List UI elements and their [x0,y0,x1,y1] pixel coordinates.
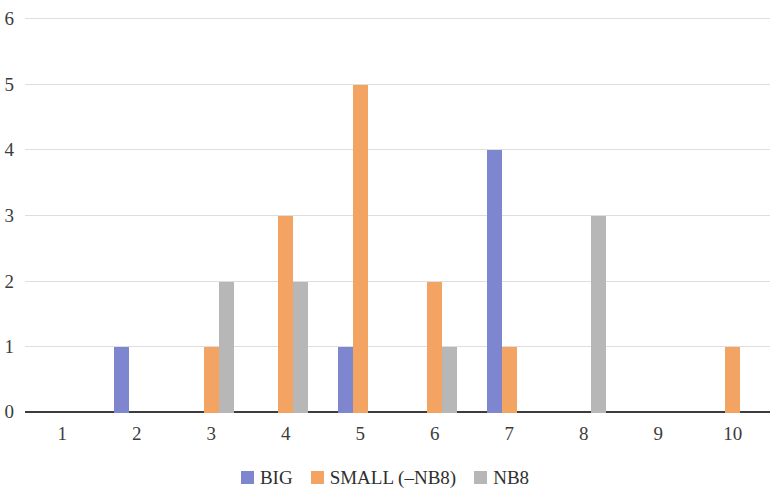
legend-swatch-icon [474,471,487,484]
x-tick-label: 10 [723,424,742,443]
bar-slot [368,19,383,413]
bar[interactable] [204,347,219,413]
bar-chart: 0123456 12345678910 BIGSMALL (–NB8)NB8 [0,0,770,501]
legend-item[interactable]: NB8 [474,468,529,487]
bar[interactable] [353,85,368,413]
bar-slot [55,19,70,413]
chart-legend: BIGSMALL (–NB8)NB8 [0,468,770,487]
bar[interactable] [502,347,517,413]
bar-slot [725,19,740,413]
bar-slot [576,19,591,413]
x-tick-label: 7 [505,424,515,443]
bars-layer [25,19,770,413]
bar-slot [129,19,144,413]
bar-slot [561,19,576,413]
bar-slot [219,19,234,413]
bar[interactable] [442,347,457,413]
x-tick-label: 5 [356,424,366,443]
y-tick-label: 3 [5,206,15,225]
bar-slot [591,19,606,413]
y-tick-label: 1 [5,337,15,356]
legend-swatch-icon [241,471,254,484]
bar-slot [40,19,55,413]
bar-slot [666,19,681,413]
legend-label: NB8 [493,468,529,487]
y-tick-label: 6 [5,9,15,28]
x-tick-label: 4 [281,424,291,443]
bar[interactable] [293,282,308,413]
x-tick-label: 8 [579,424,589,443]
bar-slot [636,19,651,413]
x-tick-label: 3 [207,424,217,443]
bar-group [323,19,398,413]
legend-label: SMALL (–NB8) [330,468,457,487]
bar-slot [263,19,278,413]
bar-slot [502,19,517,413]
bar-group [547,19,622,413]
bar-slot [412,19,427,413]
legend-swatch-icon [311,471,324,484]
plot-area: 0123456 [25,19,770,413]
x-tick-label: 6 [430,424,440,443]
bar-slot [204,19,219,413]
bar-group [472,19,547,413]
x-tick-label: 9 [654,424,664,443]
bar-slot [278,19,293,413]
legend-item[interactable]: SMALL (–NB8) [311,468,457,487]
bar-slot [740,19,755,413]
bar-slot [651,19,666,413]
bar-group [25,19,100,413]
bar-slot [293,19,308,413]
bar-group [174,19,249,413]
bar-slot [353,19,368,413]
legend-item[interactable]: BIG [241,468,293,487]
bar-group [249,19,324,413]
bar[interactable] [278,216,293,413]
bar-slot [114,19,129,413]
bar-group [696,19,770,413]
x-tick-label: 2 [132,424,142,443]
y-tick-label: 5 [5,74,15,93]
bar[interactable] [591,216,606,413]
bar-group [100,19,175,413]
bar-slot [427,19,442,413]
bar[interactable] [487,150,502,413]
bar-slot [189,19,204,413]
bar-slot [517,19,532,413]
bar-slot [338,19,353,413]
bar-slot [487,19,502,413]
bar-group [621,19,696,413]
bar[interactable] [219,282,234,413]
bar[interactable] [427,282,442,413]
x-tick-label: 1 [58,424,68,443]
y-tick-label: 2 [5,271,15,290]
bar-slot [710,19,725,413]
bar[interactable] [725,347,740,413]
bar-slot [442,19,457,413]
bar-group [398,19,473,413]
x-axis: 12345678910 [25,424,770,454]
y-tick-label: 4 [5,140,15,159]
bar-slot [144,19,159,413]
bar-slot [70,19,85,413]
bar[interactable] [114,347,129,413]
bar[interactable] [338,347,353,413]
y-tick-label: 0 [5,402,15,421]
legend-label: BIG [260,468,293,487]
